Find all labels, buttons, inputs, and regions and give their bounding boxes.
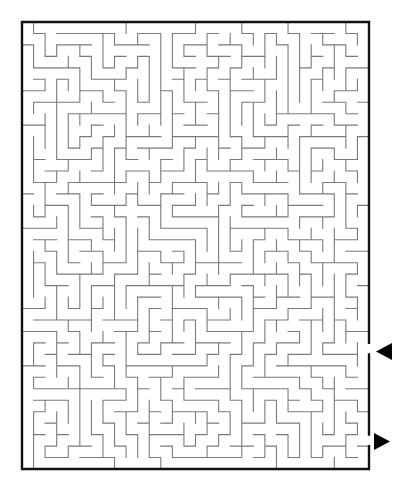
maze-walls xyxy=(22,22,369,469)
maze-wall-paths xyxy=(22,22,369,469)
maze-board xyxy=(0,0,412,492)
arrow-left-icon xyxy=(376,343,392,360)
arrow-right-icon xyxy=(374,433,390,450)
maze-arrows xyxy=(374,343,392,450)
maze-puzzle: Maze Enter at the upper arrow on the rig… xyxy=(0,0,412,492)
